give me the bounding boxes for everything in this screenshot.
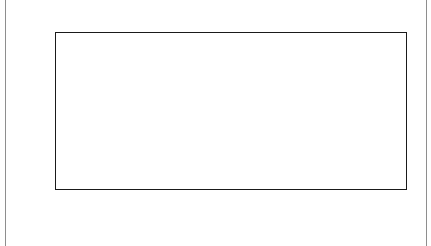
plot-frame <box>56 33 407 190</box>
figure-container <box>0 0 431 246</box>
scatter-plot <box>0 0 431 246</box>
